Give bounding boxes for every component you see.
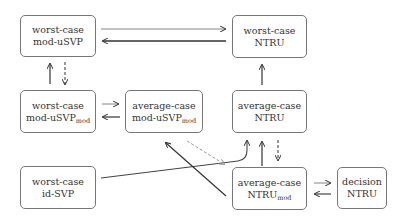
subscript: mod — [182, 117, 196, 125]
node-average-case-ntru-mod: average-case NTRUmod — [232, 167, 307, 210]
node-label-line1: worst-case — [244, 25, 296, 37]
node-decision-ntru: decision NTRU — [337, 167, 387, 209]
node-label-line2: NTRU — [255, 37, 285, 49]
arrow-ac-moduSVPmod-to-ac-NTRUmod-dashed — [187, 141, 224, 164]
node-label-line2: mod-uSVPmod — [26, 112, 90, 124]
node-average-case-mod-usvp-mod: average-case mod-uSVPmod — [125, 90, 203, 133]
node-label-line1: worst-case — [32, 176, 84, 188]
node-label-line2: NTRU — [255, 112, 285, 124]
node-worst-case-mod-usvp: worst-case mod-uSVP — [20, 15, 96, 57]
node-label-line1: worst-case — [32, 100, 84, 112]
arrow-ac-NTRUmod-to-ac-moduSVPmod — [166, 143, 226, 196]
node-worst-case-mod-usvp-mod: worst-case mod-uSVPmod — [20, 90, 96, 133]
node-label-line1: average-case — [238, 177, 301, 189]
node-worst-case-id-svp: worst-case id-SVP — [20, 166, 96, 209]
node-label-line1: decision — [342, 176, 382, 188]
subscript: mod — [76, 117, 90, 125]
node-label-line1: average-case — [238, 100, 301, 112]
node-label-line2: mod-uSVPmod — [132, 112, 196, 124]
arrow-wc-idSVP-to-ac-NTRU — [101, 141, 247, 178]
node-label-line2: NTRU — [347, 188, 377, 200]
subscript: mod — [277, 194, 291, 202]
node-worst-case-ntru: worst-case NTRU — [232, 15, 307, 58]
node-average-case-ntru: average-case NTRU — [232, 90, 307, 133]
node-label-line2: id-SVP — [42, 188, 74, 200]
node-label-line1: worst-case — [32, 24, 84, 36]
node-label-line2: NTRUmod — [247, 189, 291, 201]
node-label-line2: mod-uSVP — [33, 36, 83, 48]
node-label-line1: average-case — [132, 100, 195, 112]
